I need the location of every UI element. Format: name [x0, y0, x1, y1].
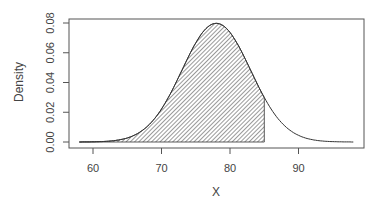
shaded-area [79, 23, 264, 142]
y-axis-title: Density [12, 62, 26, 102]
x-tick-label: 90 [292, 162, 304, 174]
y-tick-label: 0.06 [44, 42, 56, 63]
y-tick-label: 0.02 [44, 102, 56, 123]
y-tick-label: 0.08 [44, 12, 56, 33]
y-tick-label: 0.04 [44, 72, 56, 93]
x-tick-label: 80 [224, 162, 236, 174]
x-tick-label: 70 [155, 162, 167, 174]
density-chart: 60708090 0.000.020.040.060.08 X Density [0, 0, 381, 210]
x-axis-title: X [212, 185, 220, 199]
y-tick-label: 0.00 [44, 131, 56, 152]
x-axis: 60708090 [87, 148, 305, 174]
x-tick-label: 60 [87, 162, 99, 174]
y-axis: 0.000.020.040.060.08 [44, 12, 69, 152]
